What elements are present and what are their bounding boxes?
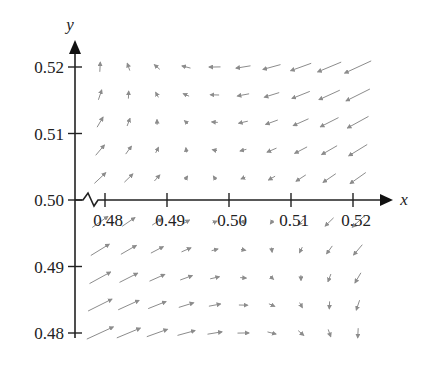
vector-arrow: [268, 332, 277, 334]
vector-arrow: [293, 119, 308, 126]
vector-arrow: [147, 329, 168, 336]
vector-arrow: [269, 176, 276, 180]
vector-arrow: [90, 272, 111, 284]
vector-arrow: [100, 62, 101, 72]
vector-arrow: [236, 66, 251, 68]
vector-arrow: [156, 147, 159, 153]
vector-arrow: [355, 273, 361, 283]
y-tick-label: 0.49: [34, 258, 64, 277]
x-ticks: 0.480.490.500.510.52: [93, 193, 371, 230]
x-tick-label: 0.49: [155, 211, 185, 230]
vector-arrow: [151, 247, 163, 254]
vector-arrow: [266, 120, 278, 124]
vector-arrow: [269, 304, 275, 307]
vector-arrow: [270, 220, 273, 224]
y-tick-label: 0.50: [34, 191, 64, 210]
y-axis-label: y: [64, 15, 74, 34]
vector-arrow: [291, 63, 312, 70]
vector-arrow: [212, 150, 217, 151]
x-tick-label: 0.50: [217, 211, 247, 230]
vector-arrow: [127, 118, 130, 126]
vector-arrow: [156, 92, 159, 97]
vector-arrow: [179, 303, 194, 308]
vector-arrow: [185, 176, 188, 180]
vector-arrow: [94, 173, 105, 184]
vector-arrow: [320, 118, 338, 127]
vector-arrow: [345, 61, 372, 73]
vector-arrow: [346, 89, 370, 101]
vector-arrow: [322, 146, 337, 155]
vector-arrow: [298, 331, 304, 336]
vector-arrow: [347, 116, 368, 128]
vector-arrow: [295, 147, 307, 154]
vector-arrow: [212, 249, 218, 251]
vector-arrow: [183, 94, 189, 97]
vector-arrow: [126, 146, 132, 154]
vector-arrow: [210, 277, 219, 279]
vector-arrow: [98, 90, 101, 100]
vector-arrow: [148, 302, 166, 309]
vector-arrow: [358, 328, 359, 338]
vector-arrow: [97, 117, 103, 127]
vector-arrow: [241, 177, 245, 179]
vector-arrow: [150, 274, 165, 281]
vector-arrow: [300, 247, 303, 253]
vector-arrow: [208, 332, 223, 334]
x-axis-arrowhead: [380, 194, 393, 206]
vector-arrow: [88, 299, 112, 311]
vector-arrow: [182, 66, 191, 68]
vector-arrow: [120, 273, 138, 282]
vector-arrow: [300, 303, 303, 308]
vector-arrow: [240, 149, 246, 151]
y-tick-label: 0.52: [34, 58, 64, 77]
vector-arrow: [292, 91, 310, 98]
vector-arrow: [127, 63, 130, 70]
vector-arrow: [325, 218, 333, 226]
vector-arrow: [323, 174, 336, 183]
vector-arrow: [350, 173, 366, 184]
vector-arrow: [354, 245, 363, 255]
vector-arrow: [356, 300, 359, 310]
vector-arrow: [91, 244, 109, 255]
vector-arrow: [272, 248, 273, 253]
y-axis-arrowhead: [69, 40, 81, 54]
vector-arrow: [270, 276, 274, 279]
x-axis-label: x: [399, 190, 408, 209]
vector-arrow: [121, 245, 136, 254]
vector-arrow: [241, 249, 246, 250]
vector-arrow: [124, 174, 132, 182]
y-tick-label: 0.48: [34, 324, 64, 343]
vector-arrow: [96, 145, 105, 155]
vector-arrow: [213, 176, 216, 180]
vector-arrow: [263, 65, 281, 70]
vector-arrow: [319, 90, 340, 100]
vector-arrow: [186, 148, 187, 153]
vector-arrow: [267, 148, 276, 152]
vector-arrow: [327, 246, 333, 254]
vector-arrow: [182, 248, 191, 252]
vector-arrow: [118, 300, 139, 310]
vector-arrow: [154, 175, 159, 181]
vector-arrow: [117, 328, 141, 338]
x-tick-label: 0.52: [341, 211, 371, 230]
y-tick-label: 0.51: [34, 125, 64, 144]
vector-arrow: [122, 218, 135, 227]
vector-arrow: [296, 175, 306, 181]
vector-arrow: [185, 121, 189, 124]
x-tick-label: 0.48: [93, 211, 123, 230]
vector-arrow: [318, 62, 342, 72]
vector-arrow: [264, 93, 279, 98]
vector-arrow: [154, 65, 159, 70]
vector-arrow: [239, 121, 248, 123]
vector-field-chart: y x 0.480.490.500.510.52 0.480.490.500.5…: [0, 0, 438, 365]
vector-arrow: [87, 327, 114, 339]
vector-arrow: [349, 145, 367, 156]
vector-arrow: [209, 304, 221, 306]
vector-arrow: [328, 274, 331, 282]
vector-arrow: [328, 329, 331, 336]
vector-arrow: [178, 331, 196, 336]
x-tick-label: 0.51: [279, 211, 309, 230]
vector-arrow: [180, 276, 192, 280]
vector-arrow: [237, 94, 249, 96]
